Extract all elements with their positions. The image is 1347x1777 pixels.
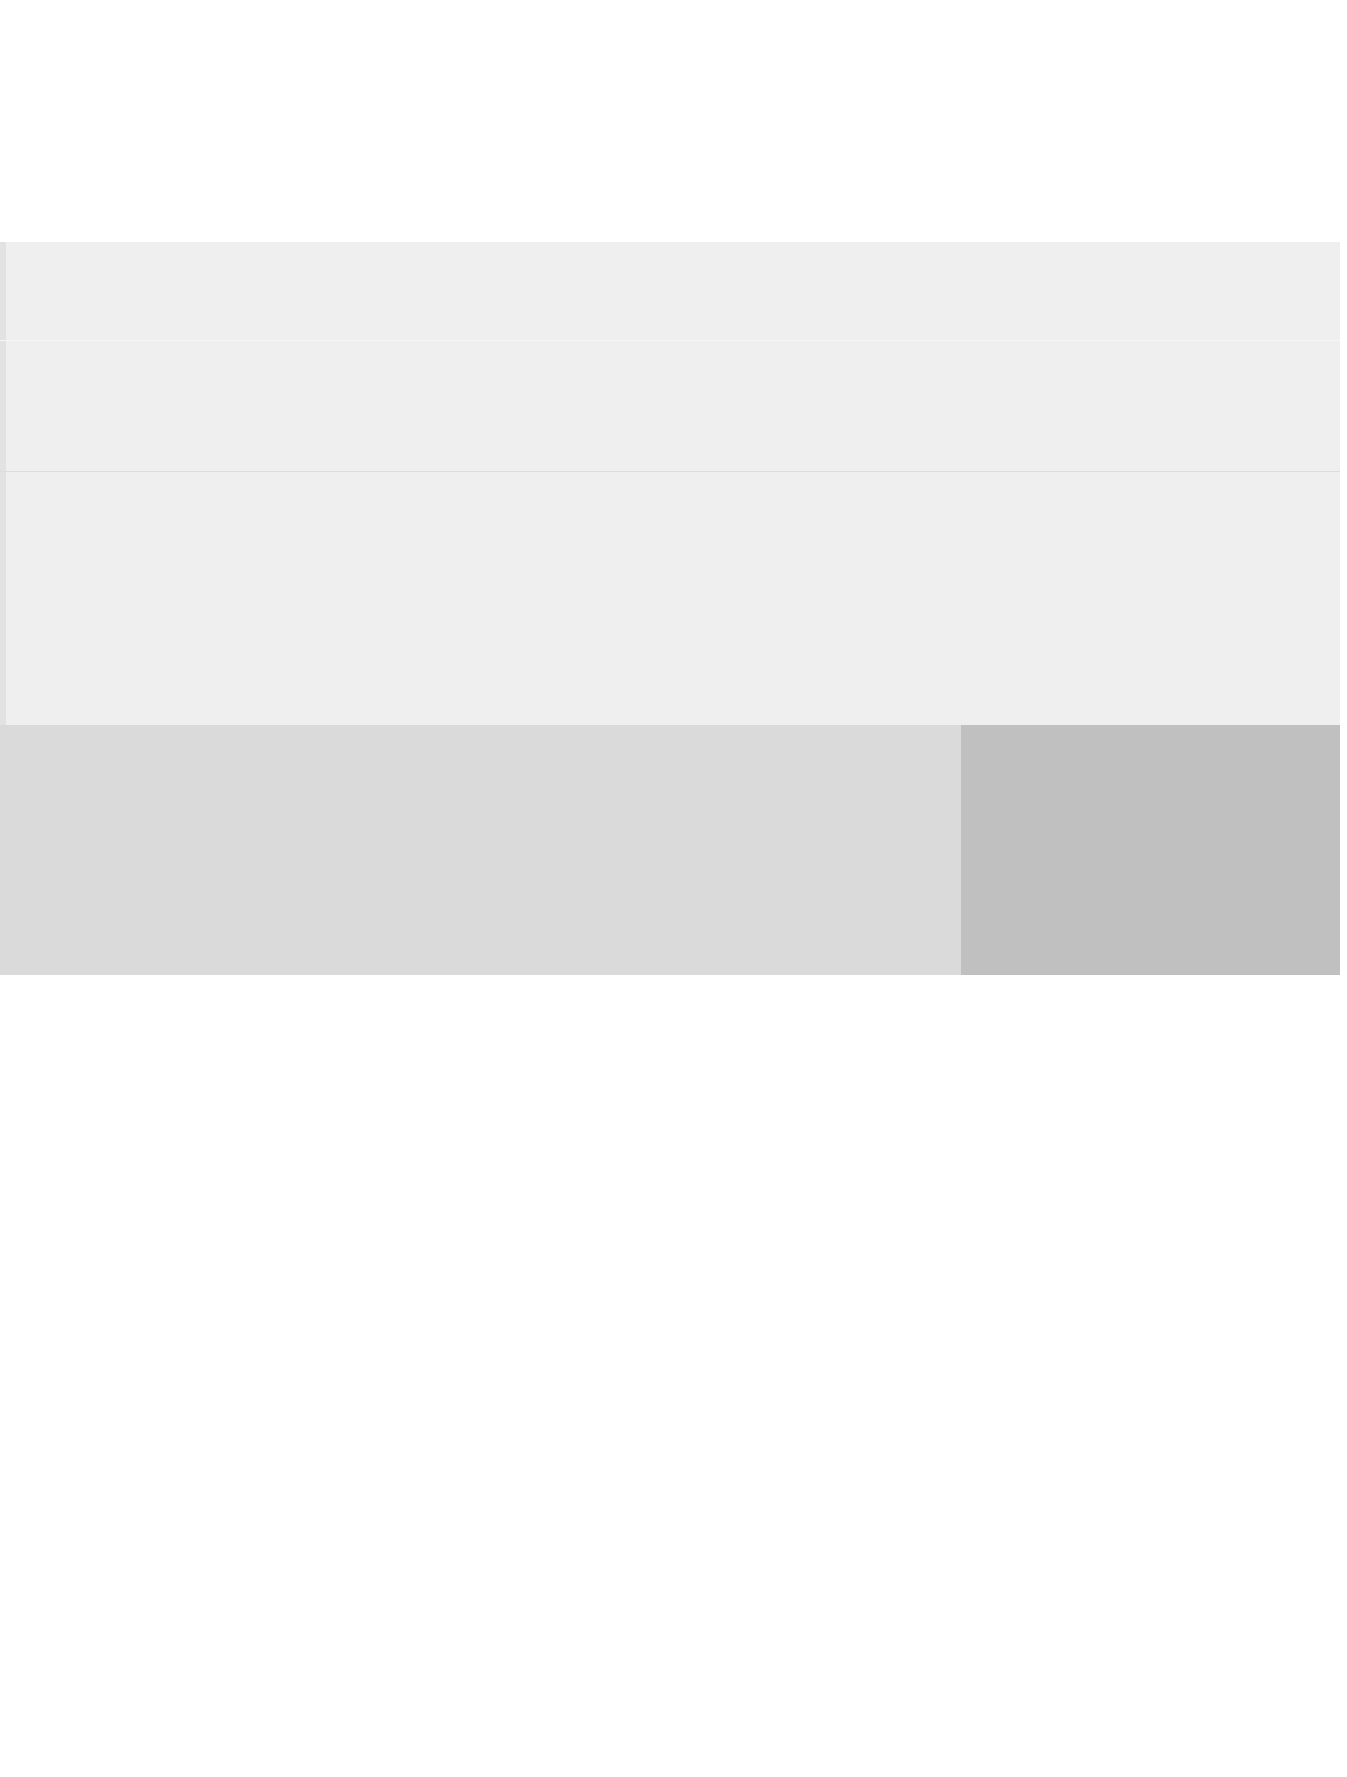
divider-line	[0, 471, 1340, 472]
divider-line	[0, 340, 1340, 341]
gray-band-top	[0, 242, 1340, 725]
gray-cell-left	[0, 725, 961, 975]
gray-cell-right	[961, 725, 1340, 975]
